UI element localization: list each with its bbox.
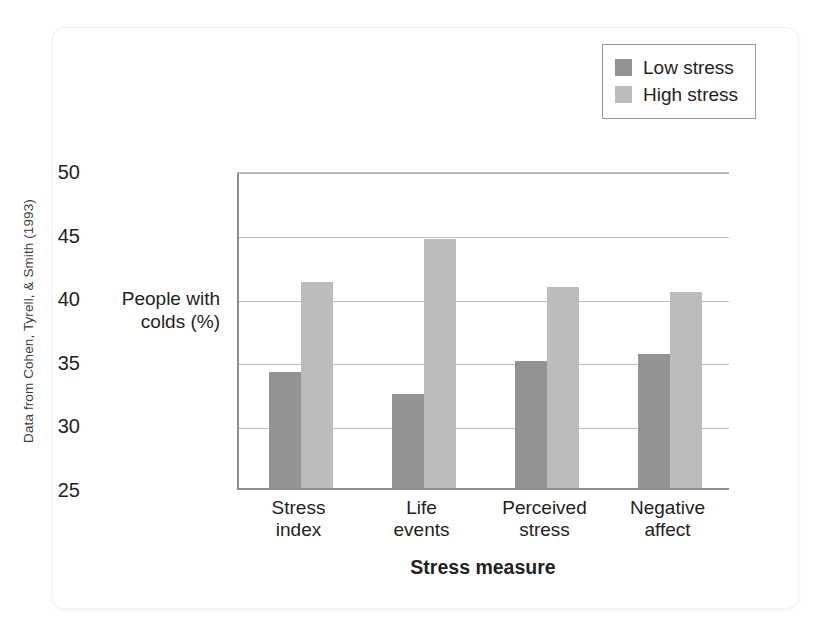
- legend-label-low-stress: Low stress: [643, 58, 734, 77]
- legend-item-low-stress: Low stress: [615, 54, 738, 81]
- chart-legend: Low stress High stress: [602, 44, 756, 119]
- legend-label-high-stress: High stress: [643, 85, 738, 104]
- source-credit-text: Data from Cohen, Tyrell, & Smith (1993): [21, 199, 36, 443]
- y-axis-title: People with colds (%): [88, 288, 220, 334]
- low-stress-swatch: [615, 59, 632, 76]
- legend-item-high-stress: High stress: [615, 81, 738, 108]
- source-credit: Data from Cohen, Tyrell, & Smith (1993): [0, 0, 56, 641]
- high-stress-swatch: [615, 86, 632, 103]
- x-axis-title: Stress measure: [237, 556, 729, 579]
